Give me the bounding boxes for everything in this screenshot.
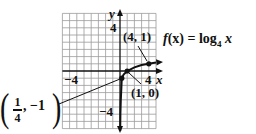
- y-tick-neg4: −4: [99, 105, 113, 118]
- x-tick-neg4: −4: [64, 73, 78, 86]
- function-label: f(x) = log4 x: [163, 32, 232, 49]
- right-paren: ): [52, 88, 61, 128]
- function-var: x: [225, 31, 232, 46]
- label-point-1-0: (1, 0): [131, 86, 159, 99]
- label-point-quarter-rest: , −1: [23, 99, 45, 113]
- label-point-4-1: (4, 1): [123, 30, 151, 43]
- leader-4-1: [138, 46, 147, 61]
- log-function-graph: y 4 −4 −4 4 x (4, 1) (1, 0) ( 1 4 , −1 )…: [0, 0, 256, 134]
- point-quarter-neg1: [119, 76, 124, 81]
- graph-canvas: [0, 0, 256, 134]
- y-axis-label: y: [109, 7, 115, 20]
- function-arg: (x): [168, 31, 184, 46]
- fraction-numerator: 1: [15, 96, 21, 108]
- y-tick-4: 4: [110, 21, 117, 34]
- fraction-one-quarter: 1 4: [13, 96, 22, 124]
- point-1-0: [125, 68, 130, 73]
- curve-arrow-icon: [156, 59, 163, 65]
- point-4-1: [146, 61, 151, 66]
- left-paren: (: [0, 88, 9, 128]
- y-axis-arrow-up-icon: [117, 9, 123, 16]
- function-equals: = log: [184, 31, 217, 46]
- fraction-denominator: 4: [15, 112, 21, 124]
